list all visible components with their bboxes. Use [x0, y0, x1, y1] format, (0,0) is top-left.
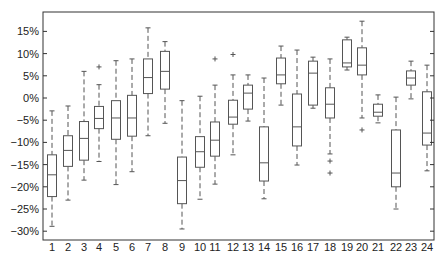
y-tick-label: −30%	[11, 225, 40, 237]
iqr-box	[144, 59, 153, 94]
x-tick-label: 19	[341, 241, 353, 253]
iqr-box	[229, 100, 238, 124]
box-11	[211, 56, 220, 184]
box-16	[293, 50, 302, 165]
x-tick-label: 5	[113, 241, 119, 253]
iqr-box	[392, 130, 401, 187]
y-tick-label: −5%	[17, 114, 40, 126]
iqr-box	[95, 106, 104, 128]
y-tick-label: 15%	[17, 25, 39, 37]
x-tick-label: 16	[291, 241, 303, 253]
iqr-box	[293, 94, 302, 146]
x-tick-label: 17	[307, 241, 319, 253]
box-2	[64, 106, 73, 200]
x-tick-label: 24	[421, 241, 433, 253]
iqr-box	[211, 122, 220, 156]
box-18	[326, 59, 335, 176]
x-tick-label: 21	[372, 241, 384, 253]
box-19	[343, 37, 352, 70]
x-tick-label: 22	[390, 241, 402, 253]
x-tick-label: 15	[275, 241, 287, 253]
y-tick-label: −15%	[11, 159, 40, 171]
x-tick-label: 10	[194, 241, 206, 253]
y-tick-label: −25%	[11, 203, 40, 215]
x-tick-label: 3	[81, 241, 87, 253]
x-tick-label: 9	[179, 241, 185, 253]
box-1	[48, 111, 57, 226]
box-6	[128, 59, 137, 172]
box-7	[144, 28, 153, 136]
boxplot-chart: 15%10%5%0%−5%−10%−15%−20%−25%−30%1234567…	[0, 0, 447, 263]
chart-canvas: 15%10%5%0%−5%−10%−15%−20%−25%−30%1234567…	[0, 0, 447, 263]
iqr-box	[309, 61, 318, 105]
iqr-box	[48, 155, 57, 197]
x-tick-label: 2	[65, 241, 71, 253]
y-tick-label: −10%	[11, 136, 40, 148]
y-tick-label: 10%	[17, 48, 39, 60]
box-14	[260, 78, 269, 199]
x-tick-label: 6	[129, 241, 135, 253]
iqr-box	[244, 85, 253, 109]
box-17	[309, 57, 318, 108]
x-tick-label: 20	[356, 241, 368, 253]
box-13	[244, 75, 253, 121]
x-tick-label: 18	[324, 241, 336, 253]
iqr-box	[80, 122, 89, 161]
x-tick-label: 7	[145, 241, 151, 253]
iqr-box	[112, 101, 121, 140]
box-21	[374, 95, 383, 123]
iqr-box	[161, 51, 170, 89]
box-4	[95, 64, 104, 161]
y-tick-label: 5%	[23, 70, 39, 82]
x-tick-label: 8	[162, 241, 168, 253]
box-12	[229, 52, 238, 155]
y-tick-label: −20%	[11, 181, 40, 193]
box-23	[407, 61, 416, 99]
iqr-box	[277, 58, 286, 84]
box-10	[196, 96, 205, 199]
box-20	[358, 21, 367, 132]
iqr-box	[374, 104, 383, 116]
x-tick-label: 11	[209, 241, 220, 253]
iqr-box	[326, 88, 335, 118]
iqr-box	[64, 136, 73, 167]
x-tick-label: 14	[258, 241, 270, 253]
box-15	[277, 46, 286, 105]
box-5	[112, 61, 121, 185]
iqr-box	[358, 48, 367, 75]
box-8	[161, 42, 170, 124]
x-tick-label: 1	[49, 241, 55, 253]
iqr-box	[260, 127, 269, 181]
boxes-layer	[48, 21, 432, 229]
box-24	[423, 65, 432, 171]
x-tick-label: 12	[227, 241, 239, 253]
x-tick-label: 13	[242, 241, 254, 253]
x-tick-label: 23	[405, 241, 417, 253]
box-3	[80, 71, 89, 180]
iqr-box	[423, 92, 432, 145]
axes-layer: 15%10%5%0%−5%−10%−15%−20%−25%−30%1234567…	[11, 12, 434, 253]
iqr-box	[128, 95, 137, 136]
x-tick-label: 4	[96, 241, 102, 253]
box-9	[178, 101, 187, 229]
y-tick-label: 0%	[23, 92, 39, 104]
box-22	[392, 97, 401, 209]
